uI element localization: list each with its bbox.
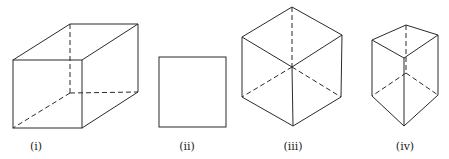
figure-ii-square — [159, 57, 226, 127]
figure-label-iii: (iii) — [283, 140, 302, 153]
figure-iii-hexagon-cube — [242, 7, 342, 126]
figure-label-i: (i) — [30, 140, 42, 153]
figure-iv-prism — [372, 25, 438, 126]
figure-label-ii: (ii) — [179, 140, 195, 153]
figures-canvas — [0, 0, 449, 159]
figure-i-cuboid — [13, 24, 138, 128]
figure-label-iv: (iv) — [396, 140, 414, 153]
